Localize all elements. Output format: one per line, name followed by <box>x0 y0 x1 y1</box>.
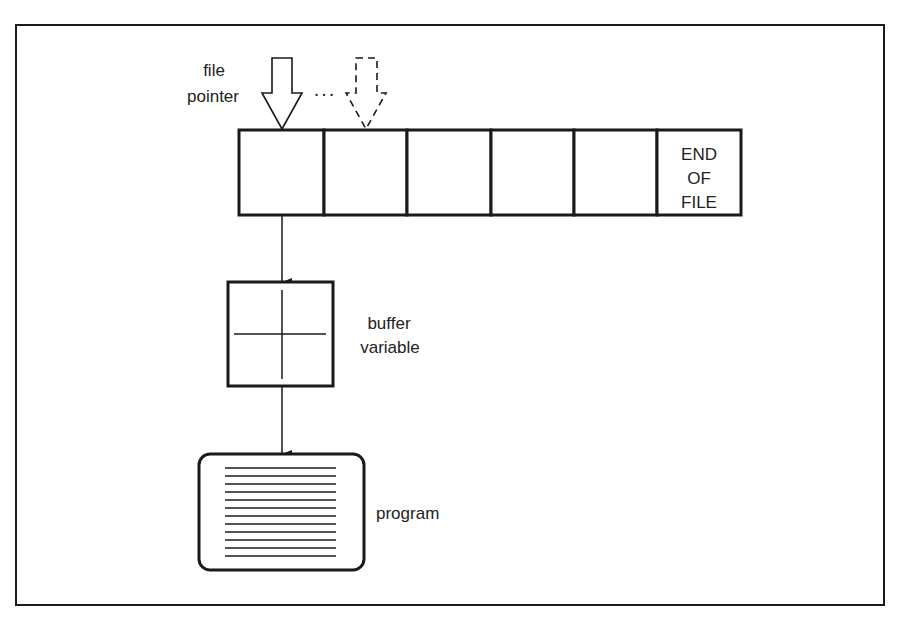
file-pointer-label-line2: pointer <box>187 87 239 106</box>
file-cell-3 <box>407 130 491 215</box>
buffer-variable-label-line2: variable <box>360 338 420 357</box>
file-cell-4 <box>491 130 574 215</box>
file-pointer-arrow-icon <box>262 58 302 129</box>
end-of-file-line2: OF <box>687 169 711 188</box>
buffer-variable-box <box>228 282 333 386</box>
program-box <box>199 454 364 570</box>
file-strip: END OF FILE <box>239 130 741 215</box>
file-pointer-label: file pointer <box>187 61 239 106</box>
end-of-file-line1: END <box>681 145 717 164</box>
pointer-ellipsis: ... <box>314 78 337 100</box>
file-cell-5 <box>574 130 657 215</box>
file-pointer-label-line1: file <box>203 61 225 80</box>
program-label: program <box>376 504 439 523</box>
next-pointer-dashed-arrow-icon <box>346 58 386 129</box>
buffer-variable-label-line1: buffer <box>367 314 411 333</box>
file-cell-2 <box>324 130 407 215</box>
diagram-canvas: file pointer ... END OF FILE buffer vari… <box>0 0 898 620</box>
end-of-file-line3: FILE <box>681 193 717 212</box>
file-cell-1 <box>239 130 324 215</box>
outer-frame <box>16 25 884 605</box>
